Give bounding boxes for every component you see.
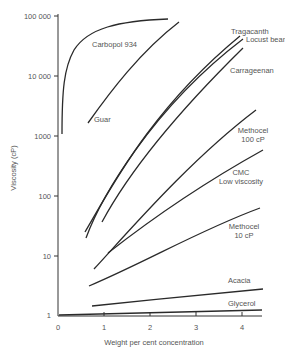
series-labels: Carbopol 934 Guar Tragacanth Locust bean… [92,27,285,308]
label-acacia: Acacia [228,276,251,285]
y-tick-label: 10 000 [28,72,51,81]
y-tick-label: 100 000 [24,12,51,21]
y-tick-label: 1000 [34,132,51,141]
x-tick-label: 4 [240,323,244,332]
label-cmc-sub: Low viscosity [219,177,263,186]
curve-carrageenan [102,48,243,222]
x-tick-label: 1 [102,323,106,332]
label-carrageenan: Carrageenan [230,66,274,75]
y-axis-title: Viscosity (cP) [9,145,18,191]
label-carbopol: Carbopol 934 [92,40,137,49]
curve-guar [88,22,179,123]
y-tick-label: 1 [47,311,51,320]
label-guar: Guar [94,115,111,124]
y-tick-label: 10 [43,252,51,261]
x-tick-label: 0 [56,323,60,332]
viscosity-chart: 100 000 10 000 1000 100 10 1 0 1 2 3 4 W… [0,0,285,351]
y-tick-label: 100 [38,192,51,201]
curve-glycerol [59,310,262,315]
label-methocel-10-sub: 10 cP [234,231,253,240]
label-cmc: CMC [232,168,250,177]
label-glycerol: Glycerol [228,299,256,308]
x-tick-label: 3 [194,323,198,332]
x-axis-title: Weight per cent concentration [104,338,204,347]
label-locust-bean: Locust bean [246,35,285,44]
curves [59,19,263,315]
y-ticks: 100 000 10 000 1000 100 10 1 [24,12,58,320]
label-methocel-100: Methocel [238,126,269,135]
curve-carbopol-934 [62,19,168,134]
label-methocel-100-sub: 100 cP [241,135,264,144]
label-methocel-10: Methocel [229,222,260,231]
x-tick-label: 2 [148,323,152,332]
